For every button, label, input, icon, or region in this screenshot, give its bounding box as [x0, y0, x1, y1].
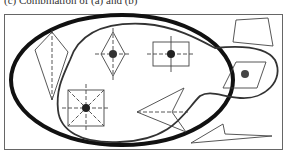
- long-arrowhead: [191, 124, 272, 143]
- center-dot-icon: [241, 70, 249, 78]
- thick-ellipse-region: [11, 15, 233, 145]
- rectangle-with-cross-and-dot: [147, 36, 195, 72]
- center-dot-icon: [82, 104, 90, 112]
- center-dot-icon: [167, 50, 175, 58]
- center-dot-icon: [109, 50, 117, 58]
- kite-with-axis: [35, 30, 68, 100]
- square-with-star-axes-and-dot: [62, 84, 110, 132]
- quadrilateral: [233, 18, 273, 46]
- rhombus-with-cross-and-dot: [95, 28, 131, 80]
- diagram-canvas: [0, 0, 287, 156]
- arrowhead-with-axis: [137, 88, 188, 132]
